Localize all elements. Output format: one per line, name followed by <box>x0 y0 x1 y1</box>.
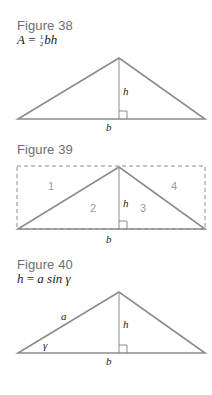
region-4-label: 4 <box>171 180 177 192</box>
angle-gamma-label: γ <box>43 339 48 351</box>
base-label: b <box>106 121 112 133</box>
height-label: h <box>123 85 129 97</box>
region-2-label: 2 <box>90 202 96 214</box>
right-angle-marker <box>119 111 127 119</box>
height-label: h <box>123 318 129 330</box>
right-angle-marker <box>119 345 127 353</box>
height-label: h <box>123 197 129 209</box>
base-label: b <box>106 355 112 367</box>
dashed-rectangle <box>17 166 205 229</box>
triangle <box>18 58 205 119</box>
figures-canvas: h b 1 2 3 4 h b a h γ b <box>0 0 212 395</box>
base-label: b <box>106 233 112 245</box>
region-3-label: 3 <box>140 202 146 214</box>
region-1-label: 1 <box>48 180 54 192</box>
figure-38-diagram <box>18 58 205 119</box>
side-a-label: a <box>61 310 67 322</box>
figure-39-diagram <box>17 166 205 229</box>
right-angle-marker <box>119 221 127 229</box>
triangle <box>18 167 205 229</box>
